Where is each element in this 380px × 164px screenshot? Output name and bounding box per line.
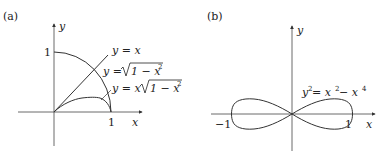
x-tick-pos-1: 1 [345,118,352,131]
svg-text:1 − x: 1 − x [131,65,161,78]
svg-text:y =: y = [102,65,122,78]
x-tick-neg-1: −1 [215,118,231,131]
label-quarter-circle: y = 1 − x 2 [102,63,163,78]
y-axis-label: y [58,20,66,33]
svg-text:1 − x: 1 − x [150,82,180,95]
svg-text:2: 2 [177,80,181,88]
x-axis-label: x [366,118,373,131]
panel-a: (a) y x 1 1 y = x y = 1 − x 2 y = x 1 − … [3,10,182,146]
svg-text:2: 2 [158,63,162,71]
label-product: y = x 1 − x 2 [111,80,182,95]
y-tick-1: 1 [44,46,51,59]
curve-product [54,97,111,112]
panel-a-label: (a) [3,10,18,23]
label-lemniscate: y 2 = x 2 − x 4 [301,85,367,99]
x-axis-label: x [132,116,139,129]
svg-text:y = x: y = x [111,82,141,95]
x-tick-1: 1 [108,116,115,129]
y-axis-label: y [296,24,304,37]
curve-y-equals-x [54,55,108,112]
label-y-equals-x: y = x [111,44,141,57]
panel-b: (b) y x −1 1 y 2 = x 2 − x 4 [207,10,375,151]
figure: (a) y x 1 1 y = x y = 1 − x 2 y = x 1 − … [0,0,380,164]
svg-text:4: 4 [362,85,367,93]
svg-text:− x: − x [339,86,359,99]
svg-text:= x: = x [312,86,332,99]
panel-b-label: (b) [207,10,223,23]
